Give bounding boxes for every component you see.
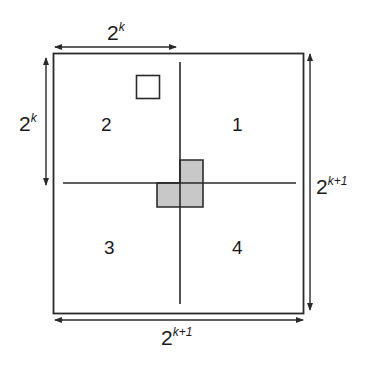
quadrant-label-3: 3 [104,237,115,258]
missing-cell-square [137,76,160,99]
tromino-tiling-diagram: 2 1 3 4 2k 2k 2k+1 2k+1 [0,0,372,365]
quadrant-label-1: 1 [232,114,243,135]
right-dimension-label: 2k+1 [316,174,347,198]
quadrant-label-4: 4 [232,237,243,258]
left-dimension-label: 2k [19,111,38,135]
bottom-dimension-label: 2k+1 [161,325,192,349]
quadrant-label-2: 2 [101,114,112,135]
top-dimension-label: 2k [107,20,126,44]
center-tromino [157,160,203,207]
